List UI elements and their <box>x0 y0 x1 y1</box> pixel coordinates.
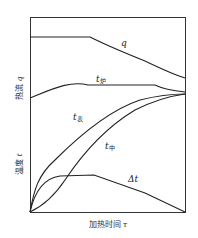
ylabel-temperature: 温度t <box>14 153 24 175</box>
label-q: q <box>121 38 127 48</box>
xlabel-heating-time: 加热时间τ <box>89 219 128 229</box>
label-t-surface: t表 <box>73 112 83 123</box>
curve-delta-t <box>30 175 185 212</box>
plot-frame <box>31 18 186 213</box>
svg-text:热流q: 热流q <box>14 76 24 99</box>
ylabel-heat-flux: 热流q <box>14 76 24 99</box>
label-t-center: t中 <box>105 141 115 152</box>
curve-t-center <box>30 94 185 212</box>
chart-canvas: q t炉 t表 t中 Δt 热流q 温度t 加热时间τ <box>0 0 198 238</box>
svg-text:温度t: 温度t <box>14 153 24 175</box>
label-delta-t: Δt <box>127 174 138 184</box>
curve-q <box>30 37 185 78</box>
label-t-furnace: t炉 <box>96 74 106 85</box>
